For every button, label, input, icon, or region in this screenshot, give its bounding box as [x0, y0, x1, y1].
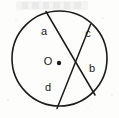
center-label-O: O: [44, 55, 53, 67]
arc-label-b: b: [89, 62, 95, 74]
center-point-dot: [57, 61, 61, 65]
arc-label-d: d: [45, 81, 51, 93]
scan-artifact-layer: [7, 1, 113, 113]
chord-upper-left-to-lower-right: [46, 12, 95, 96]
arc-label-a: a: [41, 25, 48, 37]
circle-chord-figure: O a c b d: [0, 0, 119, 118]
diagram-canvas: O a c b d: [0, 0, 119, 118]
arc-label-c: c: [85, 27, 91, 39]
